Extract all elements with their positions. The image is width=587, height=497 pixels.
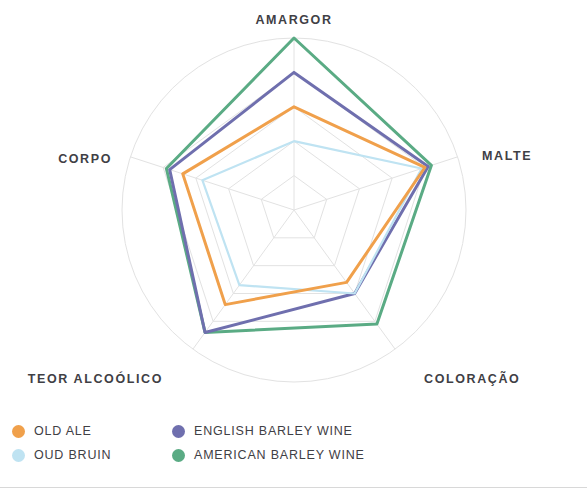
legend-item-old-ale[interactable]: OLD ALE [12,424,172,438]
axis-label-coloração: COLORAÇÃO [424,371,520,386]
radar-series-oud-bruin [202,141,421,293]
legend-swatch-oud-bruin [12,449,25,462]
bottom-divider [0,487,587,488]
legend-item-english-barley-wine[interactable]: ENGLISH BARLEY WINE [172,424,353,438]
radar-grid [122,38,466,382]
radar-series-old-ale [183,107,425,305]
radar-chart-svg: AMARGORMALTECOLORAÇÃOTEOR ALCOÓLICOCORPO [0,0,587,430]
radar-chart: AMARGORMALTECOLORAÇÃOTEOR ALCOÓLICOCORPO [0,0,587,430]
legend-label-old-ale: OLD ALE [34,424,92,438]
radar-axis-line [130,157,294,210]
legend-row-2: OUD BRUIN AMERICAN BARLEY WINE [12,443,587,467]
legend-item-oud-bruin[interactable]: OUD BRUIN [12,448,172,462]
axis-label-teor-alcoólico: TEOR ALCOÓLICO [28,371,163,386]
radar-series-american-barley-wine [166,38,431,332]
legend-item-american-barley-wine[interactable]: AMERICAN BARLEY WINE [172,448,365,462]
legend-row-1: OLD ALE ENGLISH BARLEY WINE [12,419,587,443]
radar-series-group [166,38,431,332]
axis-label-amargor: AMARGOR [255,13,332,27]
radar-axis-line [294,157,458,210]
chart-legend: OLD ALE ENGLISH BARLEY WINE OUD BRUIN AM… [0,419,587,479]
legend-label-oud-bruin: OUD BRUIN [34,448,111,462]
axis-label-malte: MALTE [482,149,532,163]
legend-swatch-old-ale [12,425,25,438]
legend-swatch-american-barley-wine [172,449,185,462]
legend-swatch-english-barley-wine [172,425,185,438]
axis-label-corpo: CORPO [58,152,112,166]
legend-label-american-barley-wine: AMERICAN BARLEY WINE [194,448,365,462]
legend-label-english-barley-wine: ENGLISH BARLEY WINE [194,424,353,438]
